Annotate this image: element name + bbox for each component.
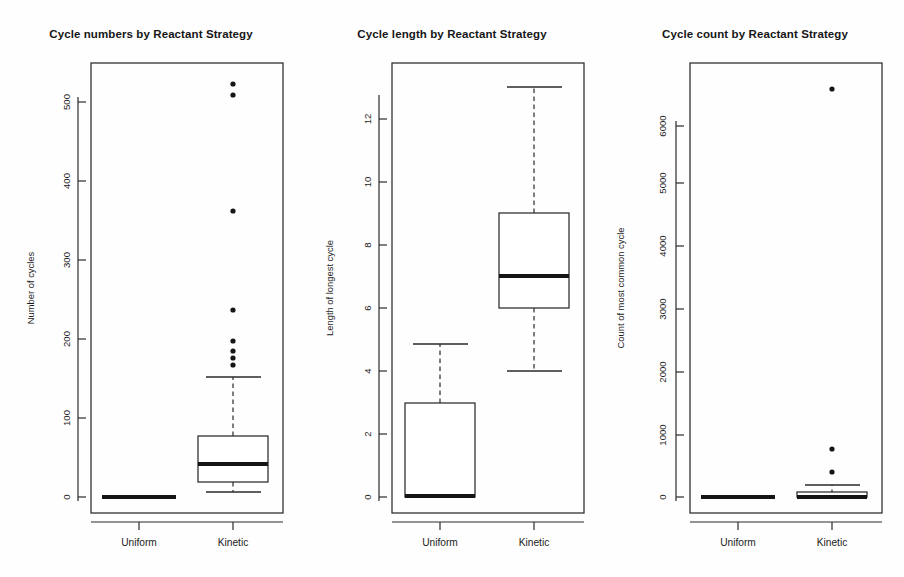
panel-1-ytick-300: 300 (61, 252, 72, 268)
panel-2-ytick-6: 6 (362, 305, 373, 310)
panel-3-canvas: Cycle count by Reactant Strategy Count o… (602, 0, 903, 577)
panel-3-plot-frame (690, 63, 882, 513)
panel-1-ytick-100: 100 (61, 410, 72, 426)
panel-3-ytick-0: 0 (657, 494, 668, 499)
panel-3-xlabel-uniform: Uniform (720, 537, 756, 548)
panel-3-ytick-6000: 6000 (657, 115, 668, 136)
panel-2-xlabel-uniform: Uniform (422, 537, 458, 548)
panel-3-y-ticks: 0 1000 2000 3000 4000 5000 6000 (657, 115, 684, 499)
panel-1-ytick-200: 200 (61, 331, 72, 347)
panel-1-ytick-400: 400 (61, 173, 72, 189)
panel-1-ytick-0: 0 (61, 494, 72, 499)
panel-1-xlabel-uniform: Uniform (121, 537, 157, 548)
panel-1-ytick-500: 500 (61, 94, 72, 110)
panel-2-xlabel-kinetic: Kinetic (519, 537, 550, 548)
panel-3-title: Cycle count by Reactant Strategy (662, 28, 848, 40)
panel-3-ytick-1000: 1000 (657, 424, 668, 445)
panel-2-ytick-2: 2 (362, 431, 373, 436)
panel-2-ytick-10: 10 (362, 177, 373, 188)
panel-2-y-ticks: 0 2 4 6 8 10 12 (362, 114, 387, 500)
panel-3-ytick-4000: 4000 (657, 235, 668, 256)
panel-1-title: Cycle numbers by Reactant Strategy (49, 28, 253, 40)
panel-2-ytick-8: 8 (362, 242, 373, 247)
panel-1-y-axis-label: Number of cycles (25, 251, 36, 324)
panel-cycle-numbers: Cycle numbers by Reactant Strategy Numbe… (0, 0, 301, 577)
panel-3-ytick-5000: 5000 (657, 172, 668, 193)
panel-2-ytick-0: 0 (362, 494, 373, 499)
panel-3-box-kinetic (797, 86, 867, 497)
panel-2-y-axis-label: Length of longest cycle (324, 240, 335, 336)
panel-2-canvas: Cycle length by Reactant Strategy Length… (301, 0, 602, 577)
panel-3-ytick-2000: 2000 (657, 361, 668, 382)
panel-2-box-uniform (405, 344, 475, 497)
panel-3-xlabel-kinetic: Kinetic (817, 537, 848, 548)
panel-1-y-ticks: 0 100 200 300 400 500 (61, 94, 86, 500)
panel-1-xlabel-kinetic: Kinetic (218, 537, 249, 548)
panel-cycle-count: Cycle count by Reactant Strategy Count o… (602, 0, 903, 577)
panel-3-ytick-3000: 3000 (657, 298, 668, 319)
panel-2-title: Cycle length by Reactant Strategy (357, 28, 547, 40)
panel-2-ytick-12: 12 (362, 114, 373, 125)
panel-2-box-kinetic (499, 87, 569, 371)
boxplot-figure: Cycle numbers by Reactant Strategy Numbe… (0, 0, 904, 577)
panel-2-ytick-4: 4 (362, 368, 373, 374)
panel-1-canvas: Cycle numbers by Reactant Strategy Numbe… (0, 0, 301, 577)
panel-cycle-length: Cycle length by Reactant Strategy Length… (301, 0, 602, 577)
panel-1-box-kinetic (198, 81, 268, 492)
panel-3-y-axis-label: Count of most common cycle (615, 228, 626, 349)
